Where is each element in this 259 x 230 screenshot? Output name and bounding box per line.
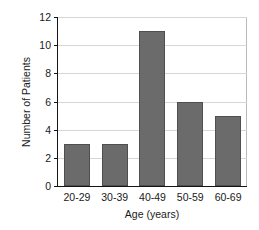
bar xyxy=(215,116,241,186)
bar xyxy=(177,102,203,187)
x-axis-tick-label: 30-39 xyxy=(101,191,128,203)
y-axis-tick-label: 6 xyxy=(45,96,51,108)
x-axis-tick-label: 40-49 xyxy=(139,191,166,203)
y-axis-tick-label: 0 xyxy=(45,180,51,192)
y-axis-tick-label: 10 xyxy=(39,39,51,51)
gridline xyxy=(58,186,247,187)
y-axis-tick-label: 8 xyxy=(45,67,51,79)
x-axis-tick-label: 60-69 xyxy=(215,191,242,203)
x-axis-tick-label: 20-29 xyxy=(63,191,90,203)
y-axis-tick-mark xyxy=(54,186,58,187)
bar-group: 50-59 xyxy=(171,17,209,186)
bar-group: 30-39 xyxy=(96,17,134,186)
bar-group: 20-29 xyxy=(58,17,96,186)
x-axis-title: Age (years) xyxy=(57,208,247,220)
y-axis-tick-label: 2 xyxy=(45,152,51,164)
bar xyxy=(139,31,165,186)
bars-layer: 20-2930-3940-4950-5960-69 xyxy=(58,17,247,186)
y-axis-tick-label: 12 xyxy=(39,11,51,23)
y-axis-tick-label: 4 xyxy=(45,124,51,136)
plot-area: 024681012 20-2930-3940-4950-5960-69 xyxy=(57,17,247,187)
y-axis-title: Number of Patients xyxy=(18,17,34,187)
bar-group: 60-69 xyxy=(209,17,247,186)
bar xyxy=(64,144,90,186)
bar-chart-figure: Number of Patients 024681012 20-2930-394… xyxy=(0,0,259,230)
bar-group: 40-49 xyxy=(134,17,172,186)
bar xyxy=(102,144,128,186)
x-axis-tick-label: 50-59 xyxy=(177,191,204,203)
